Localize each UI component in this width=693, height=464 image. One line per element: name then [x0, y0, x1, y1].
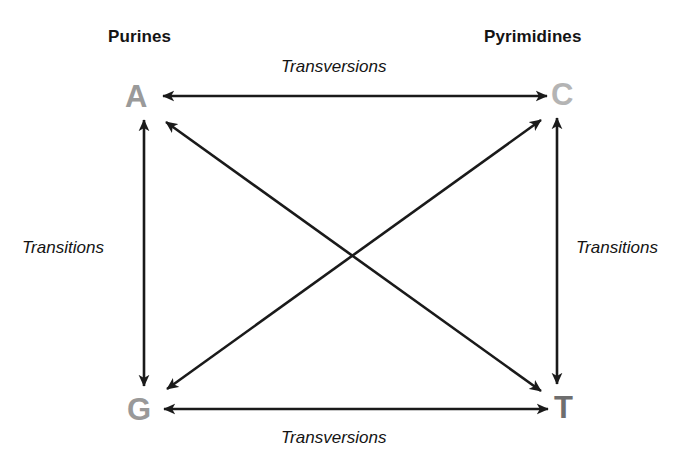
group-label-purines: Purines: [108, 27, 171, 47]
edge-label-transitions-left: Transitions: [22, 238, 104, 258]
base-node-t: T: [554, 392, 573, 423]
edge-label-transitions-right: Transitions: [576, 238, 658, 258]
substitution-diagram: Purines Pyrimidines A C G T Transversion…: [0, 0, 693, 464]
group-label-pyrimidines: Pyrimidines: [484, 27, 581, 47]
base-node-c: C: [551, 79, 573, 110]
base-node-g: G: [127, 394, 151, 425]
base-node-a: A: [125, 81, 147, 112]
edge-label-transversions-bottom: Transversions: [281, 428, 387, 448]
edge-g-c: [167, 120, 541, 389]
edge-label-transversions-top: Transversions: [281, 57, 387, 77]
